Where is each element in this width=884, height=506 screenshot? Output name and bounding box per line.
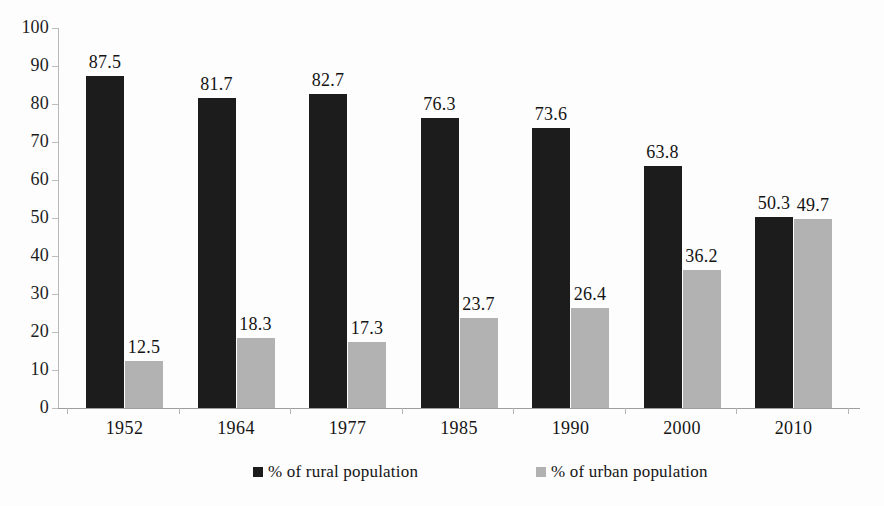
bar-value-rural-1977: 82.7	[303, 70, 353, 91]
bar-group-1985: 76.323.7	[421, 28, 498, 408]
x-label-1985: 1985	[399, 418, 520, 439]
chart-legend: % of rural population% of urban populati…	[0, 462, 884, 490]
y-tick-mark	[52, 66, 58, 67]
bar-urban-1985[interactable]	[460, 318, 498, 408]
bar-urban-2000[interactable]	[683, 270, 721, 408]
y-tick-mark	[52, 104, 58, 105]
bar-rural-2010[interactable]	[755, 217, 793, 408]
bar-rural-1977[interactable]	[309, 94, 347, 408]
bar-value-urban-1977: 17.3	[342, 318, 392, 339]
bar-group-1964: 81.718.3	[198, 28, 275, 408]
x-label-2000: 2000	[622, 418, 743, 439]
y-tick-label: 0	[40, 397, 49, 418]
bar-rural-1952[interactable]	[86, 76, 124, 409]
y-tick-mark	[52, 256, 58, 257]
legend-swatch-icon	[536, 467, 546, 477]
y-tick-mark	[52, 370, 58, 371]
bar-urban-2010[interactable]	[794, 219, 832, 408]
bar-rural-1964[interactable]	[198, 98, 236, 408]
y-tick-label: 20	[31, 321, 49, 342]
y-tick-label: 100	[21, 17, 49, 38]
bar-urban-1952[interactable]	[125, 361, 163, 409]
bar-value-rural-1952: 87.5	[80, 52, 130, 73]
chart-page: 1009080706050403020100 87.512.581.718.38…	[0, 0, 884, 506]
y-tick-mark	[52, 28, 58, 29]
y-tick-label: 60	[31, 169, 49, 190]
legend-swatch-icon	[253, 467, 263, 477]
y-tick-label: 50	[31, 207, 49, 228]
bar-group-1952: 87.512.5	[86, 28, 163, 408]
y-tick-mark	[52, 218, 58, 219]
bar-value-urban-1985: 23.7	[454, 294, 504, 315]
legend-item-rural[interactable]: % of rural population	[253, 462, 418, 482]
bar-group-1977: 82.717.3	[309, 28, 386, 408]
bar-value-rural-1964: 81.7	[192, 74, 242, 95]
bar-urban-1977[interactable]	[348, 342, 386, 408]
y-axis-line	[58, 28, 59, 408]
y-tick-label: 80	[31, 93, 49, 114]
y-tick-label: 30	[31, 283, 49, 304]
x-tick-mark	[402, 408, 403, 414]
bar-group-2000: 63.836.2	[644, 28, 721, 408]
x-label-1977: 1977	[287, 418, 408, 439]
bar-value-urban-1990: 26.4	[565, 284, 615, 305]
bar-rural-1985[interactable]	[421, 118, 459, 408]
y-tick-mark	[52, 180, 58, 181]
bar-value-urban-1964: 18.3	[231, 314, 281, 335]
bar-group-1990: 73.626.4	[532, 28, 609, 408]
plot-area: 1009080706050403020100 87.512.581.718.38…	[58, 28, 860, 408]
bar-urban-1990[interactable]	[571, 308, 609, 408]
y-tick-mark	[52, 142, 58, 143]
y-tick-mark	[52, 332, 58, 333]
bar-value-urban-2010: 49.7	[788, 195, 838, 216]
bar-value-rural-1985: 76.3	[415, 94, 465, 115]
legend-label: % of rural population	[268, 462, 418, 482]
x-tick-mark	[736, 408, 737, 414]
y-tick-label: 70	[31, 131, 49, 152]
y-tick-label: 90	[31, 55, 49, 76]
x-tick-mark	[625, 408, 626, 414]
x-tick-mark	[179, 408, 180, 414]
y-tick-mark	[52, 294, 58, 295]
bar-value-rural-2000: 63.8	[638, 142, 688, 163]
bar-group-2010: 50.349.7	[755, 28, 832, 408]
y-tick-label: 10	[31, 359, 49, 380]
x-label-1990: 1990	[510, 418, 631, 439]
x-label-1964: 1964	[176, 418, 297, 439]
x-tick-mark	[290, 408, 291, 414]
x-tick-mark	[513, 408, 514, 414]
y-tick-label: 40	[31, 245, 49, 266]
x-tick-mark	[848, 408, 849, 414]
bar-rural-1990[interactable]	[532, 128, 570, 408]
x-label-1952: 1952	[64, 418, 185, 439]
bar-urban-1964[interactable]	[237, 338, 275, 408]
legend-label: % of urban population	[551, 462, 708, 482]
bar-value-urban-2000: 36.2	[677, 246, 727, 267]
x-tick-mark	[67, 408, 68, 414]
y-tick-mark	[52, 408, 58, 409]
bar-rural-2000[interactable]	[644, 166, 682, 408]
x-label-2010: 2010	[733, 418, 854, 439]
bar-value-rural-1990: 73.6	[526, 104, 576, 125]
bar-value-urban-1952: 12.5	[119, 337, 169, 358]
legend-item-urban[interactable]: % of urban population	[536, 462, 708, 482]
